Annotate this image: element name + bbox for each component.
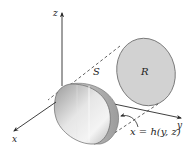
surface-solid-s (54, 83, 118, 144)
z-axis-label: z (53, 9, 58, 18)
x-axis (14, 102, 56, 131)
surface-s-label: S (93, 67, 100, 77)
x-axis-label: x (12, 135, 17, 144)
surface-equation-label: x = h(y, z) (130, 127, 181, 137)
region-r-label: R (141, 67, 149, 77)
surface-projection-figure: z x y S R x = h(y, z) (0, 0, 196, 152)
